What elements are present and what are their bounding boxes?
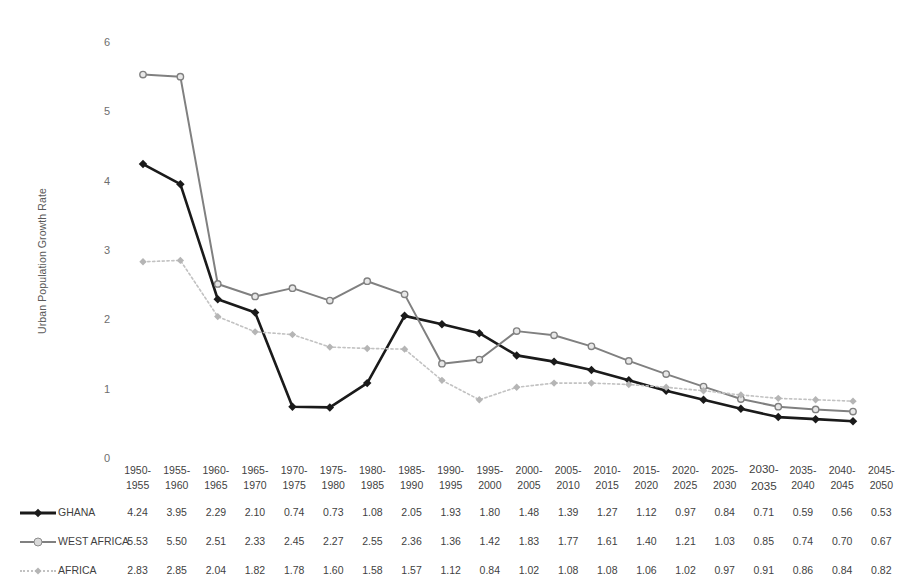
data-point [139,258,146,265]
legend-item-africa[interactable]: AFRICA [0,556,118,585]
data-point [587,366,595,374]
data-point [775,395,782,402]
table-cell: 0.84 [705,498,744,527]
column-header-2035-2040: 2035- 2040 [783,458,822,498]
table-cell: 0.74 [275,498,314,527]
legend-swatch-icon [20,507,56,519]
data-point [140,71,146,77]
table-cell: 0.82 [862,556,901,585]
column-header-2025-2030: 2025- 2030 [705,458,744,498]
legend-item-ghana[interactable]: GHANA [0,498,118,527]
table-cell: 0.70 [823,527,862,556]
series-africa [139,257,856,405]
column-header-2010-2015: 2010- 2015 [588,458,627,498]
table-cell: 1.03 [705,527,744,556]
table-cell: 1.78 [275,556,314,585]
data-point [252,293,258,299]
data-point [513,384,520,391]
data-point [626,358,632,364]
column-header-2040-2045: 2040- 2045 [823,458,862,498]
legend-item-west-africa[interactable]: WEST AFRICA [0,527,118,556]
data-point [513,328,519,334]
data-point [849,397,856,404]
data-point [289,331,296,338]
table-cell: 3.95 [157,498,196,527]
series-line [143,260,853,401]
table-cell: 0.74 [783,527,822,556]
series-data-table: 1950- 19551955- 19601960- 19651965- 1970… [0,458,901,585]
table-cell: 2.55 [353,527,392,556]
table-cell: 1.06 [627,556,666,585]
table-cell: 0.84 [823,556,862,585]
table-cell: 2.83 [118,556,157,585]
urban-population-growth-rate-chart: Urban Population Growth Rate 0123456 195… [0,0,901,588]
column-header-1990-1995: 1990- 1995 [431,458,470,498]
legend-label: GHANA [58,505,95,520]
table-cell: 0.56 [823,498,862,527]
table-cell: 1.02 [509,556,548,585]
data-point [774,413,782,421]
column-header-1975-1980: 1975- 1980 [314,458,353,498]
table-cell: 1.40 [627,527,666,556]
data-point [663,371,669,377]
data-point [251,328,258,335]
data-point [438,320,446,328]
data-table-panel: 1950- 19551955- 19601960- 19651965- 1970… [0,458,901,588]
data-point [326,343,333,350]
column-header-2030-2035: 2030- 2035 [744,458,783,498]
data-point [588,343,594,349]
column-header-1950-1955: 1950- 1955 [118,458,157,498]
data-point [364,345,371,352]
column-header-1980-1985: 1980- 1985 [353,458,392,498]
table-cell: 1.42 [470,527,509,556]
table-cell: 0.59 [783,498,822,527]
legend-swatch-icon [20,565,56,577]
table-cell: 5.50 [157,527,196,556]
table-cell: 1.12 [627,498,666,527]
column-header-2015-2020: 2015- 2020 [627,458,666,498]
data-point [476,356,482,362]
table-cell: 1.02 [666,556,705,585]
data-point [288,402,296,410]
column-header-2005-2010: 2005- 2010 [549,458,588,498]
series-line [143,75,853,412]
table-cell: 2.33 [235,527,274,556]
plot-area [0,0,901,470]
table-cell: 1.77 [549,527,588,556]
table-cell: 2.27 [314,527,353,556]
data-point [550,357,558,365]
table-cell: 0.91 [744,556,783,585]
legend-label: AFRICA [58,563,97,578]
legend-marker-icon [34,567,41,574]
data-point [215,281,221,287]
table-cell: 1.39 [549,498,588,527]
data-point [849,417,857,425]
data-point [213,295,221,303]
table-cell: 1.61 [588,527,627,556]
data-point [699,396,707,404]
table-body: GHANA4.243.952.292.100.740.731.082.051.9… [0,498,901,585]
table-cell: 1.21 [666,527,705,556]
table-cell: 1.08 [353,498,392,527]
table-cell: 2.29 [196,498,235,527]
data-point [289,285,295,291]
data-point [551,332,557,338]
table-row: WEST AFRICA5.535.502.512.332.452.272.552… [0,527,901,556]
series-west-africa [140,71,856,414]
table-cell: 2.05 [392,498,431,527]
data-point [811,415,819,423]
table-cell: 2.45 [275,527,314,556]
table-cell: 2.85 [157,556,196,585]
table-cell: 1.36 [431,527,470,556]
table-cell: 2.04 [196,556,235,585]
data-point [812,406,818,412]
table-cell: 4.24 [118,498,157,527]
column-header-2020-2025: 2020- 2025 [666,458,705,498]
table-cell: 0.71 [744,498,783,527]
data-point [775,403,781,409]
table-cell: 2.51 [196,527,235,556]
legend-swatch-icon [20,536,56,548]
column-header-1965-1970: 1965- 1970 [235,458,274,498]
column-header-1960-1965: 1960- 1965 [196,458,235,498]
table-corner-cell [0,458,118,498]
